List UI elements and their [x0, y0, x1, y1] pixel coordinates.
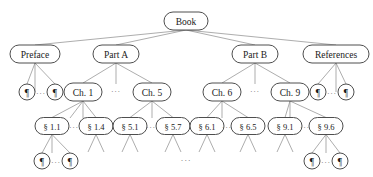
book-structure-tree-diagram: BookPrefacePart APart BReferences¶¶Ch. 1…: [0, 0, 373, 177]
tree-edge: [83, 63, 116, 83]
ellipsis-el_s96_paras: ···: [321, 158, 331, 167]
tree-node-s11_p2[interactable]: ¶: [62, 153, 78, 169]
node-label-ch5: Ch. 5: [142, 88, 163, 98]
tree-edge: [186, 30, 336, 45]
ellipsis-el_ch1_sections: ···: [69, 123, 79, 132]
tree-edge: [88, 135, 96, 153]
node-label-s96_p2: ¶: [338, 157, 343, 167]
node-label-s51: § 5.1: [122, 122, 139, 132]
tree-edge: [130, 135, 138, 153]
tree-edge: [318, 63, 336, 84]
node-label-s11_p2: ¶: [68, 157, 73, 167]
tree-node-pf_p2[interactable]: ¶: [47, 84, 63, 100]
tree-node-s14[interactable]: § 1.4: [79, 118, 113, 135]
node-label-refs: References: [315, 50, 357, 60]
tree-node-partA[interactable]: Part A: [93, 45, 139, 63]
node-label-s57: § 5.7: [165, 122, 182, 132]
node-label-pf_p1: ¶: [25, 88, 30, 98]
tree-node-s57[interactable]: § 5.7: [156, 118, 190, 135]
node-label-rf_p1: ¶: [316, 88, 321, 98]
tree-node-partB[interactable]: Part B: [232, 45, 278, 63]
tree-edge: [83, 101, 96, 118]
tree-node-ch1[interactable]: Ch. 1: [64, 83, 102, 101]
tree-edge: [285, 135, 293, 153]
node-label-s11_p1: ¶: [40, 157, 45, 167]
tree-edge: [42, 135, 52, 154]
tree-edge: [285, 101, 290, 118]
node-label-ch6: Ch. 6: [212, 88, 233, 98]
node-label-rf_p2: ¶: [344, 88, 349, 98]
tree-node-rf_p1[interactable]: ¶: [310, 84, 326, 100]
tree-node-s61[interactable]: § 6.1: [190, 118, 224, 135]
tree-edge: [222, 101, 248, 118]
tree-edge: [207, 101, 222, 118]
tree-edge: [207, 135, 215, 153]
tree-edge: [290, 101, 326, 118]
tree-edge: [116, 63, 152, 83]
ellipsis-el_refs_children: ···: [327, 89, 337, 98]
tree-edge: [27, 63, 35, 84]
tree-node-s11[interactable]: § 1.1: [35, 118, 69, 135]
tree-edge: [165, 135, 173, 153]
tree-edge: [35, 63, 55, 84]
tree-node-rf_p2[interactable]: ¶: [338, 84, 354, 100]
tree-edge: [116, 30, 186, 45]
node-label-s65: § 6.5: [240, 122, 257, 132]
node-label-partA: Part A: [104, 50, 128, 60]
ellipsis-el_partA_children: ···: [111, 87, 121, 96]
tree-edge: [199, 135, 207, 153]
ellipsis-el_s11_paras: ···: [51, 158, 61, 167]
tree-edge: [35, 30, 186, 45]
tree-edge: [52, 135, 70, 154]
node-layer: BookPrefacePart APart BReferences¶¶Ch. 1…: [10, 12, 369, 169]
tree-edge: [248, 135, 256, 153]
tree-edge: [96, 135, 104, 153]
node-label-s91: § 9.1: [277, 122, 294, 132]
tree-edge: [52, 101, 83, 118]
tree-edge: [326, 135, 340, 154]
tree-edge: [130, 101, 152, 118]
tree-node-pf_p1[interactable]: ¶: [19, 84, 35, 100]
tree-edge: [122, 135, 130, 153]
node-label-s11: § 1.1: [44, 122, 61, 132]
tree-edge: [173, 135, 181, 153]
tree-node-ch9[interactable]: Ch. 9: [271, 83, 309, 101]
tree-node-s65[interactable]: § 6.5: [231, 118, 265, 135]
node-label-s96: § 9.6: [318, 122, 335, 132]
tree-edge: [240, 135, 248, 153]
tree-edge: [186, 30, 255, 45]
node-label-partB: Part B: [243, 50, 267, 60]
tree-node-s96_p2[interactable]: ¶: [332, 153, 348, 169]
ellipsis-el_ch6_sections: ···: [222, 123, 232, 132]
tree-node-book[interactable]: Book: [164, 12, 208, 30]
tree-node-s91[interactable]: § 9.1: [268, 118, 302, 135]
node-label-ch1: Ch. 1: [73, 88, 94, 98]
ellipsis-el_partB_children: ···: [250, 87, 260, 96]
node-label-pf_p2: ¶: [53, 88, 58, 98]
node-label-s96_p1: ¶: [310, 157, 315, 167]
tree-edge: [70, 101, 83, 118]
tree-node-ch6[interactable]: Ch. 6: [203, 83, 241, 101]
ellipsis-el_bottom_center: ···: [181, 155, 192, 165]
node-label-preface: Preface: [21, 50, 49, 60]
tree-edge: [255, 63, 290, 83]
tree-node-s96_p1[interactable]: ¶: [304, 153, 320, 169]
tree-node-s51[interactable]: § 5.1: [113, 118, 147, 135]
ellipsis-el_preface_children: ···: [36, 89, 46, 98]
ellipsis-el_ch5_sections: ···: [146, 123, 156, 132]
tree-edge: [222, 63, 255, 83]
tree-edge: [312, 135, 326, 154]
tree-node-ch5[interactable]: Ch. 5: [133, 83, 171, 101]
tree-node-s11_p1[interactable]: ¶: [34, 153, 50, 169]
tree-edge: [152, 101, 173, 118]
tree-edge: [336, 63, 346, 84]
tree-node-s96[interactable]: § 9.6: [309, 118, 343, 135]
tree-node-refs[interactable]: References: [303, 45, 369, 63]
node-label-s61: § 6.1: [199, 122, 216, 132]
node-label-s14: § 1.4: [88, 122, 106, 132]
node-label-ch9: Ch. 9: [280, 88, 301, 98]
node-label-book: Book: [176, 17, 197, 27]
ellipsis-el_ch9_sections: ···: [300, 123, 310, 132]
tree-edge: [277, 135, 285, 153]
tree-node-preface[interactable]: Preface: [10, 45, 60, 63]
